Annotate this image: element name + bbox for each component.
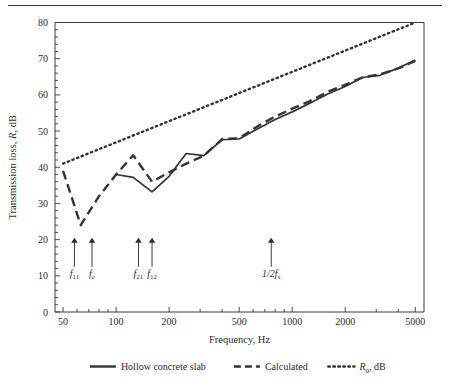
x-axis-tick-label: 2000 bbox=[335, 316, 355, 327]
y-axis-tick-label: 10 bbox=[38, 270, 48, 281]
x-axis-tick-label: 1000 bbox=[282, 316, 302, 327]
y-axis-title: Transmission loss, R, dB bbox=[7, 115, 18, 219]
legend-label: R0, dB bbox=[358, 361, 386, 375]
y-axis-tick-label: 20 bbox=[38, 234, 48, 245]
y-axis-title-text: Transmission loss, R, dB bbox=[7, 115, 18, 219]
annotation-arrow-1/2fs: 1/2fs bbox=[262, 238, 281, 281]
legend-item-dashed: Calculated bbox=[234, 361, 308, 372]
y-axis-tick-label: 30 bbox=[38, 198, 48, 209]
arrow-head bbox=[89, 238, 96, 243]
annotation-label: 1/2fs bbox=[262, 268, 281, 282]
figure-container: 0102030405060708050100200500100020005000… bbox=[0, 0, 450, 388]
annotation-label: f21 bbox=[134, 268, 144, 282]
annotation-arrow-f21: f21 bbox=[134, 238, 144, 281]
legend-label: Hollow concrete slab bbox=[121, 361, 206, 372]
x-axis-tick-label: 100 bbox=[109, 316, 124, 327]
y-axis-tick-label: 40 bbox=[38, 162, 48, 173]
legend-item-dotted: R0, dB bbox=[328, 361, 386, 375]
arrow-head bbox=[149, 238, 156, 243]
y-axis-tick-label: 50 bbox=[38, 126, 48, 137]
x-axis-tick-label: 200 bbox=[162, 316, 177, 327]
x-axis-tick-label: 5000 bbox=[405, 316, 425, 327]
legend-item-solid: Hollow concrete slab bbox=[90, 361, 206, 372]
annotation-label: f12 bbox=[147, 268, 157, 282]
series-line-dotted bbox=[63, 23, 415, 164]
chart-legend: Hollow concrete slabCalculatedR0, dB bbox=[90, 361, 386, 375]
annotation-arrow-f12: f12 bbox=[147, 238, 157, 281]
transmission-loss-chart: 0102030405060708050100200500100020005000… bbox=[0, 0, 450, 388]
y-axis-tick-label: 0 bbox=[43, 307, 48, 318]
annotation-label: fc bbox=[89, 268, 95, 282]
x-axis-tick-label: 50 bbox=[58, 316, 68, 327]
legend-label: Calculated bbox=[265, 361, 308, 372]
y-axis-tick-label: 80 bbox=[38, 17, 48, 28]
annotation-label: f11 bbox=[70, 268, 80, 282]
y-axis-tick-label: 70 bbox=[38, 53, 48, 64]
arrow-head bbox=[135, 238, 142, 243]
annotation-arrow-fc: fc bbox=[89, 238, 96, 281]
arrow-head bbox=[71, 238, 78, 243]
x-axis-tick-label: 500 bbox=[232, 316, 247, 327]
arrow-head bbox=[268, 238, 275, 243]
annotation-arrow-f11: f11 bbox=[70, 238, 80, 281]
x-axis-title: Frequency, Hz bbox=[209, 334, 270, 345]
series-line-solid bbox=[116, 60, 415, 192]
y-axis-tick-label: 60 bbox=[38, 89, 48, 100]
